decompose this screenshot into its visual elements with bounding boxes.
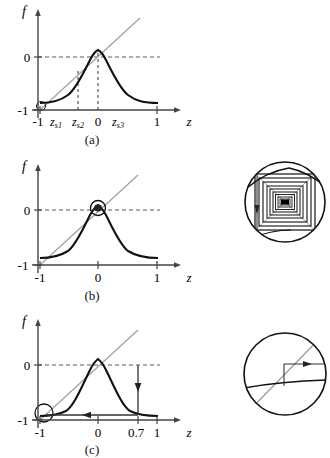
ytick-label-minus1: -1 — [18, 413, 29, 428]
ytick-label-minus1: -1 — [18, 103, 29, 118]
panel-c-plot: f 0 -1 -1 0 0.7 1 z — [0, 312, 200, 458]
panel-c: f 0 -1 -1 0 0.7 1 z (c) — [0, 312, 200, 458]
y-axis-label: f — [22, 4, 28, 19]
marker-label-zs2: zs2 — [71, 115, 84, 130]
inset-b — [243, 158, 329, 250]
panel-a-plot: f 0 -1 -1 1 0 z zs1 zs2 zs3 — [0, 0, 200, 150]
xtick-label-0: 0 — [95, 270, 102, 285]
ytick-label-0: 0 — [24, 203, 31, 218]
x-axis-arrowhead — [174, 107, 181, 113]
xtick-label-1: 1 — [154, 114, 161, 129]
y-axis-arrowhead — [35, 9, 41, 16]
panel-b: f 0 -1 -1 0 1 z (b) — [0, 155, 200, 305]
bell-curve — [40, 50, 158, 103]
x-axis-label: z — [185, 114, 191, 129]
panel-b-plot: f 0 -1 -1 0 1 z — [0, 155, 200, 305]
bell-curve — [40, 359, 158, 416]
ytick-label-0: 0 — [24, 50, 31, 65]
y-axis-arrowhead — [35, 164, 41, 171]
xtick-label-minus1: -1 — [35, 425, 46, 440]
x-axis-arrowhead — [174, 417, 181, 423]
identity-diagonal-line — [40, 175, 138, 265]
identity-diagonal-line — [40, 330, 138, 420]
inset-right-arrow-head — [303, 361, 312, 367]
left-arrow-head — [82, 412, 91, 418]
xtick-label-minus1: -1 — [35, 270, 46, 285]
inset-flat-curve — [244, 380, 326, 388]
down-arrow-head — [135, 383, 142, 392]
identity-diagonal-line — [40, 18, 140, 110]
panel-b-caption: (b) — [62, 288, 122, 304]
ytick-label-0: 0 — [24, 358, 31, 373]
inset-center-dark — [281, 200, 289, 205]
panel-c-caption: (c) — [62, 442, 122, 458]
x-axis-label: z — [185, 270, 191, 285]
inset-b-plot — [243, 158, 329, 250]
tangency-point-blob — [94, 205, 102, 212]
xtick-label-0: 0 — [95, 114, 102, 129]
y-axis-label: f — [22, 314, 28, 329]
inset-c — [240, 328, 330, 424]
x-axis-arrowhead — [174, 262, 181, 268]
inset-c-plot — [240, 328, 330, 424]
bell-curve — [40, 205, 158, 258]
x-axis-label: z — [185, 425, 191, 440]
y-axis-label: f — [22, 159, 28, 174]
marker-label-zs3: zs3 — [111, 115, 124, 130]
xtick-label-minus1: -1 — [33, 114, 44, 129]
y-axis-arrowhead — [35, 319, 41, 326]
figure-root: f 0 -1 -1 1 0 z zs1 zs2 zs3 (a) — [0, 0, 330, 458]
xtick-label-1: 1 — [154, 425, 161, 440]
panel-a-caption: (a) — [62, 132, 122, 148]
marker-label-zs1: zs1 — [49, 115, 62, 130]
xtick-label-1: 1 — [154, 270, 161, 285]
xtick-label-07: 0.7 — [128, 425, 145, 440]
ytick-label-minus1: -1 — [18, 258, 29, 273]
xtick-label-0: 0 — [95, 425, 102, 440]
panel-a: f 0 -1 -1 1 0 z zs1 zs2 zs3 (a) — [0, 0, 200, 150]
